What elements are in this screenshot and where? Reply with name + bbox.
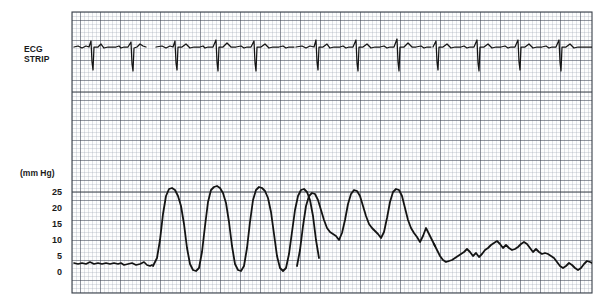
hemodynamic-tracing-figure: ECG STRIP (mm Hg) 25 20 15 10 5 0 Right … (0, 0, 604, 306)
tracing-canvas (0, 0, 604, 306)
grid-paper (72, 12, 592, 293)
